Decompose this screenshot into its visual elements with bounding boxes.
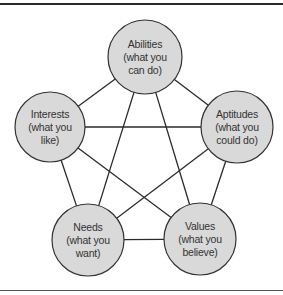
edge-interests-needs (61, 160, 76, 206)
edge-aptitudes-values (211, 161, 225, 205)
node-label-interests: Interests (what you like) (28, 108, 72, 147)
node-label-abilities: Abilities (what you can do) (123, 38, 167, 77)
edge-abilities-values (156, 92, 190, 204)
edge-abilities-aptitudes (174, 79, 208, 105)
node-label-values: Values (what you believe) (178, 220, 222, 259)
edge-abilities-interests (78, 79, 115, 106)
bottom-rule (0, 290, 283, 291)
node-label-needs: Needs (what you want) (66, 221, 110, 260)
edge-abilities-needs (99, 92, 134, 205)
node-label-aptitudes: Aptitudes (what you could do) (215, 108, 259, 147)
